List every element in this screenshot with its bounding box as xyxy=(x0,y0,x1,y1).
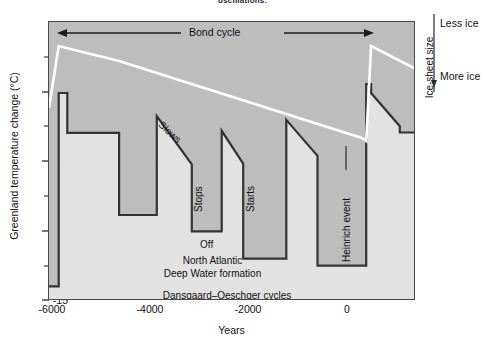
ice-sheet-line xyxy=(49,46,415,141)
y-axis-label: Greenland temperature change (°C) xyxy=(8,56,20,256)
figure-title: oscillations. xyxy=(0,0,485,4)
x-tick-label-2000: -2000 xyxy=(218,303,278,315)
less-ice-label: Less ice xyxy=(440,17,479,29)
x-tick-label-4000: -4000 xyxy=(120,303,180,315)
x-axis-label: Years xyxy=(48,324,415,336)
bond-arrow-head-right xyxy=(364,29,374,37)
plot-area: Bond cycle Slows Stops Starts Off North … xyxy=(48,21,415,300)
annotation-off: Off xyxy=(200,239,213,250)
annotation-nadw-line2: Deep Water formation xyxy=(125,268,300,279)
annotation-do-cycles: Dansgaard–Oeschger cycles xyxy=(127,290,327,300)
annotation-bond-cycle: Bond cycle xyxy=(189,26,240,38)
figure-root: oscillations. 0 -5 -10 -15 Greenland tem… xyxy=(0,0,485,346)
ice-sheet-axis-label: Ice-sheet size xyxy=(424,8,435,128)
annotation-stops: Stops xyxy=(193,186,204,212)
x-tick-label-6000: -6000 xyxy=(22,303,82,315)
annotation-starts: Starts xyxy=(245,186,256,212)
annotation-nadw-line1: North Atlantic xyxy=(145,255,280,266)
x-tick-label-0: 0 xyxy=(317,303,377,315)
bond-arrow-head-left xyxy=(57,29,67,37)
annotation-heinrich-event: Heinrich event xyxy=(341,198,352,262)
more-ice-label: More ice xyxy=(440,70,480,82)
